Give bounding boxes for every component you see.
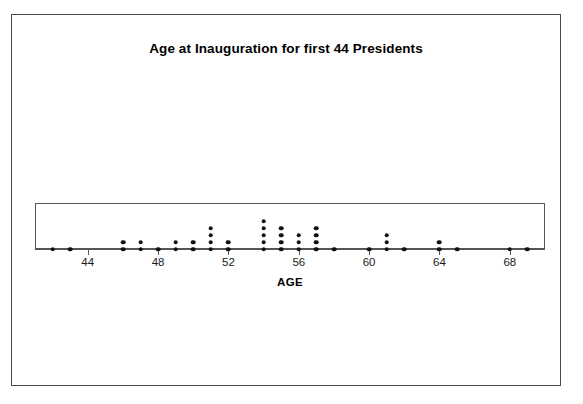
data-dot [367, 247, 372, 252]
data-dot [191, 240, 196, 245]
data-dot [384, 247, 389, 252]
data-dot [138, 240, 143, 245]
x-axis-tick-label: 56 [292, 256, 305, 268]
data-dot [261, 240, 266, 245]
data-dot [261, 233, 266, 238]
data-dot [226, 247, 231, 252]
data-dot [279, 233, 284, 238]
data-dot [191, 247, 196, 252]
x-axis-tick-label: 52 [222, 256, 235, 268]
data-dot [261, 247, 266, 252]
x-axis-title: AGE [35, 276, 545, 288]
data-dot [296, 233, 301, 238]
chart-title: Age at Inauguration for first 44 Preside… [12, 41, 560, 56]
data-dot [437, 247, 442, 252]
page-border: Age at Inauguration for first 44 Preside… [11, 14, 561, 386]
data-dot [508, 247, 513, 252]
x-axis-tick-label: 48 [152, 256, 165, 268]
data-dot [173, 247, 178, 252]
data-dot [437, 240, 442, 245]
data-dot [68, 247, 73, 252]
data-dot [50, 247, 55, 252]
data-dot [314, 226, 319, 231]
data-dot [156, 247, 161, 252]
x-axis-tick-label: 64 [433, 256, 446, 268]
data-dot [209, 247, 214, 252]
data-dot [314, 247, 319, 252]
data-dot [296, 240, 301, 245]
dot-plot-series [35, 203, 545, 249]
data-dot [455, 247, 460, 252]
data-dot [332, 247, 337, 252]
x-axis-line [35, 249, 545, 250]
data-dot [279, 226, 284, 231]
x-axis-tick-label: 60 [363, 256, 376, 268]
data-dot [296, 247, 301, 252]
data-dot [384, 240, 389, 245]
data-dot [279, 247, 284, 252]
data-dot [121, 247, 126, 252]
x-axis-tick-label: 44 [81, 256, 94, 268]
data-dot [138, 247, 143, 252]
data-dot [261, 219, 266, 224]
x-axis-tick [88, 249, 89, 255]
data-dot [173, 240, 178, 245]
data-dot [209, 240, 214, 245]
x-axis-tick-label: 68 [503, 256, 516, 268]
data-dot [261, 226, 266, 231]
data-dot [279, 240, 284, 245]
data-dot [314, 240, 319, 245]
data-dot [209, 233, 214, 238]
data-dot [226, 240, 231, 245]
data-dot [314, 233, 319, 238]
data-dot [209, 226, 214, 231]
data-dot [121, 240, 126, 245]
data-dot [402, 247, 407, 252]
data-dot [384, 233, 389, 238]
data-dot [525, 247, 530, 252]
